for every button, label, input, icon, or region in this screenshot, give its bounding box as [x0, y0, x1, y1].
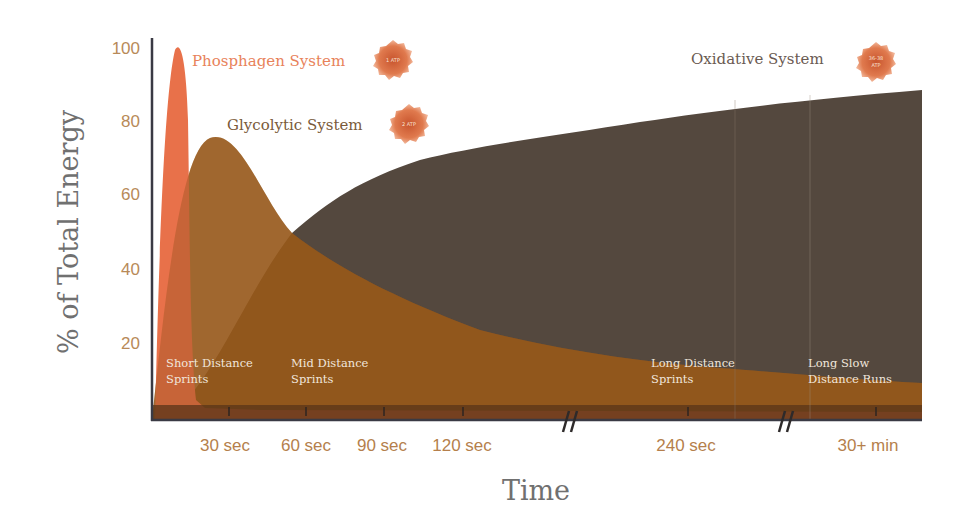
x-tick-label: 30+ min — [838, 436, 899, 455]
x-tick-label: 90 sec — [357, 436, 408, 455]
base-band — [152, 405, 922, 420]
y-axis-title: % of Total Energy — [53, 109, 84, 354]
x-tick-label: 240 sec — [656, 436, 716, 455]
x-tick-label: 60 sec — [281, 436, 332, 455]
svg-text:36-38: 36-38 — [869, 55, 884, 61]
zone-label-long-slow: Distance Runs — [808, 372, 892, 386]
y-tick-label: 100 — [112, 39, 140, 58]
x-tick-label: 120 sec — [432, 436, 492, 455]
x-axis-title: Time — [502, 475, 570, 506]
y-tick-label: 40 — [121, 260, 140, 279]
zone-label-mid-sprints: Mid Distance — [291, 356, 369, 370]
atp-badge-glycolytic: 2 ATP — [389, 104, 429, 144]
y-tick-label: 80 — [121, 112, 140, 131]
svg-text:ATP: ATP — [871, 62, 880, 68]
zone-label-short-sprints: Sprints — [166, 372, 208, 386]
atp-badge-phosphagen: 1 ATP — [373, 40, 413, 80]
zone-label-long-sprints: Long Distance — [651, 356, 735, 370]
glycolytic-label: Glycolytic System — [227, 116, 363, 134]
x-tick-label: 30 sec — [200, 436, 251, 455]
atp-badge-oxidative: 36-38 ATP — [856, 42, 896, 82]
zone-label-short-sprints: Short Distance — [166, 356, 253, 370]
phosphagen-label: Phosphagen System — [192, 52, 345, 70]
svg-text:2 ATP: 2 ATP — [402, 121, 416, 127]
energy-systems-chart: 100 80 60 40 20 % of Total Energy 30 sec… — [0, 0, 973, 523]
zone-label-long-sprints: Sprints — [651, 372, 693, 386]
zone-label-mid-sprints: Sprints — [291, 372, 333, 386]
y-tick-label: 20 — [121, 334, 140, 353]
zone-label-long-slow: Long Slow — [808, 356, 869, 370]
y-tick-label: 60 — [121, 185, 140, 204]
svg-text:1 ATP: 1 ATP — [386, 57, 400, 63]
oxidative-label: Oxidative System — [691, 50, 824, 68]
